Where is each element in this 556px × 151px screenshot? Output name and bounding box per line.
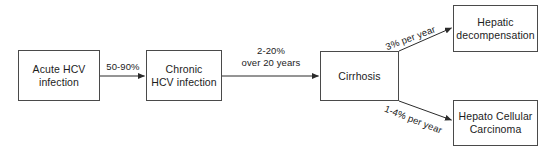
node-label-cirrhosis: Cirrhosis [336,70,382,83]
node-label-decompensation: Hepatic decompensation [454,16,536,42]
edge-label-acute-to-chronic: 50-90% [102,61,144,73]
flowchart-diagram: Acute HCV infection Chronic HCV infectio… [0,0,556,151]
node-hepato-cellular-carcinoma: Hepato Cellular Carcinoma [453,100,538,146]
node-label-hcc: Hepato Cellular Carcinoma [457,110,535,136]
node-chronic-hcv-infection: Chronic HCV infection [146,50,222,101]
edge-label-chronic-to-cirrhosis: 2-20% over 20 years [233,45,309,68]
node-label-acute: Acute HCV infection [31,63,88,89]
node-hepatic-decompensation: Hepatic decompensation [453,5,538,52]
node-cirrhosis: Cirrhosis [320,51,399,101]
node-acute-hcv-infection: Acute HCV infection [18,50,100,101]
node-label-chronic: Chronic HCV infection [149,63,219,89]
